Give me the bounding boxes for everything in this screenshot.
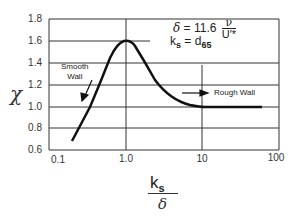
smooth-wall-arrow (81, 80, 92, 101)
x-tick: 100 (268, 152, 285, 163)
eq1-u: U (222, 28, 230, 40)
y-tick: 0.6 (28, 144, 42, 155)
eq2-sub-65: 65 (201, 40, 211, 50)
y-tick: 1.0 (28, 101, 42, 112)
equation-ks: ks = d65 (170, 34, 211, 50)
y-axis-label: χ (10, 82, 22, 106)
x-tick: 0.1 (51, 154, 65, 165)
x-tick: 1.0 (119, 153, 133, 164)
eq1-fraction: ν U′* (222, 17, 236, 40)
y-tick: 1.2 (28, 79, 42, 90)
eq1-ustar: U′* (222, 29, 236, 40)
x-axis-label-numerator: ks (150, 173, 165, 194)
eq2-d: = d (184, 34, 201, 48)
y-tick: 0.8 (28, 122, 42, 133)
x-axis-label-denominator: δ (158, 195, 167, 213)
rough-wall-label: Rough Wall (214, 88, 255, 98)
smooth-wall-line1: Smooth (61, 62, 89, 72)
rough-wall-arrow (182, 90, 208, 96)
y-tick: 1.6 (28, 35, 42, 46)
eq2-sub-s: s (176, 40, 181, 50)
x-tick: 10 (196, 153, 207, 164)
eq1-value: = 11.6 (184, 21, 217, 35)
y-tick: 1.8 (28, 13, 42, 24)
eq1-delta: δ (173, 21, 180, 35)
smooth-wall-line2: Wall (61, 72, 89, 82)
y-tick: 1.4 (28, 57, 42, 68)
smooth-wall-label: Smooth Wall (61, 62, 89, 82)
x-label-k: k (150, 173, 159, 192)
eq1-star: * (232, 28, 236, 40)
x-axis-fraction-bar (148, 193, 178, 194)
